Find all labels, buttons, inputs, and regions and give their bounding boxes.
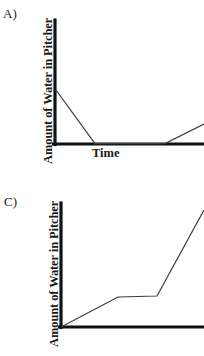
data-line-a [56,90,204,144]
chart-panel-a: A) Amount of Water in Pitcher Time [0,0,204,178]
plot-area-c [0,178,204,356]
data-line-c [62,210,204,327]
x-axis-label-a: Time [92,146,120,161]
chart-panel-c: C) Amount of Water in Pitcher Time [0,178,204,356]
